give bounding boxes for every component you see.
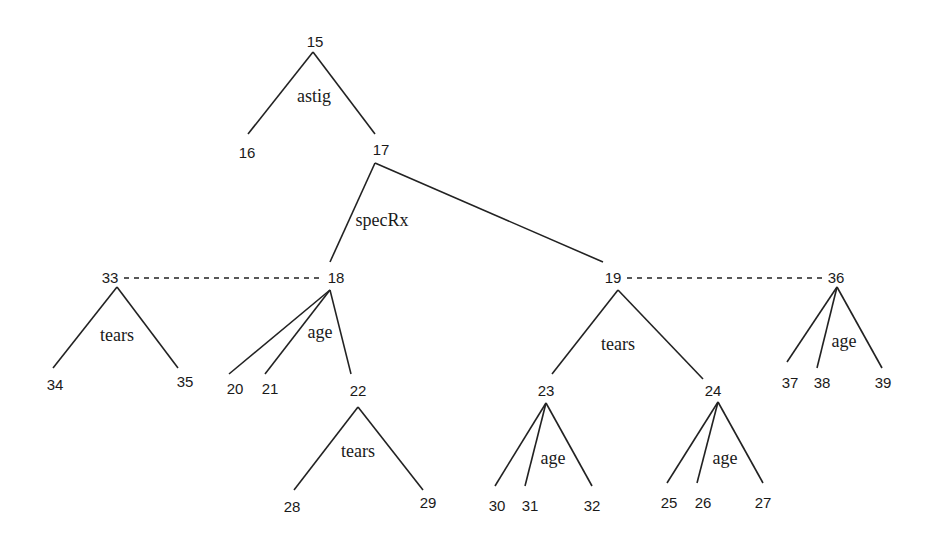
split-label-age: age: [713, 448, 738, 468]
node-16: 16: [239, 144, 256, 161]
split-label-tears: tears: [341, 441, 375, 461]
node-28: 28: [284, 498, 301, 515]
node-27: 27: [755, 494, 772, 511]
node-21: 21: [262, 380, 279, 397]
node-24: 24: [705, 382, 722, 399]
tree-edge: [330, 290, 351, 374]
node-32: 32: [584, 497, 601, 514]
node-18: 18: [328, 269, 345, 286]
node-38: 38: [814, 374, 831, 391]
tree-edge: [718, 402, 763, 483]
node-20: 20: [227, 380, 244, 397]
node-25: 25: [661, 494, 678, 511]
node-29: 29: [420, 494, 437, 511]
node-35: 35: [177, 373, 194, 390]
node-34: 34: [47, 376, 64, 393]
split-label-specRx: specRx: [356, 210, 409, 230]
tree-edge: [667, 402, 718, 483]
node-26: 26: [695, 494, 712, 511]
tree-edge: [375, 163, 603, 262]
node-36: 36: [828, 269, 845, 286]
tree-edge: [495, 403, 546, 486]
node-31: 31: [522, 497, 539, 514]
tree-edge: [697, 402, 718, 483]
split-label-age: age: [541, 448, 566, 468]
node-37: 37: [782, 374, 799, 391]
node-30: 30: [489, 497, 506, 514]
node-33: 33: [102, 269, 119, 286]
tree-edge: [817, 287, 837, 368]
split-label-age: age: [308, 322, 333, 342]
tree-edge: [837, 287, 882, 368]
tree-canvas: 1516171819333634352021222324373839282930…: [0, 0, 934, 541]
split-label-age: age: [832, 331, 857, 351]
split-label-astig: astig: [297, 86, 331, 106]
node-19: 19: [605, 269, 622, 286]
split-label-tears: tears: [100, 325, 134, 345]
node-22: 22: [350, 382, 367, 399]
split-label-tears: tears: [601, 334, 635, 354]
tree-edge: [552, 290, 618, 374]
node-39: 39: [875, 374, 892, 391]
tree-edge: [787, 287, 837, 362]
node-23: 23: [538, 382, 555, 399]
tree-edge: [525, 403, 546, 486]
tree-edge: [546, 403, 592, 486]
decision-tree-diagram: 1516171819333634352021222324373839282930…: [0, 0, 934, 541]
node-15: 15: [307, 33, 324, 50]
node-17: 17: [373, 141, 390, 158]
